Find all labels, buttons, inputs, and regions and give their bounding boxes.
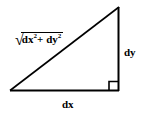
- term-two-exponent: 2: [58, 32, 62, 40]
- plus-operator: +: [37, 33, 43, 45]
- hypotenuse-line: [10, 7, 119, 91]
- hypotenuse-label: √dx2+dy2: [14, 30, 63, 46]
- term-two-base: dy: [46, 33, 58, 45]
- right-triangle-diagram: √dx2+dy2 dy dx: [0, 0, 143, 118]
- vertical-side-label: dy: [124, 47, 136, 58]
- term-one-base: dx: [22, 33, 34, 45]
- horizontal-side-label: dx: [62, 99, 74, 110]
- radicand-group: dx2+dy2: [21, 32, 64, 45]
